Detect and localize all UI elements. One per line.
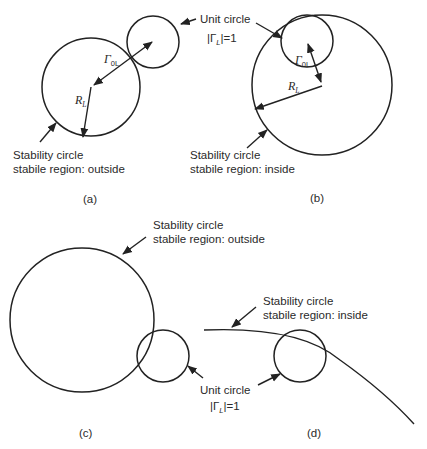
caption-c: (c): [79, 427, 93, 439]
radius-arrow-a: [83, 87, 91, 137]
unit-circle-magnitude-a: |ΓL|=1: [207, 32, 237, 47]
unit-circle-label-c: Unit circle: [200, 384, 250, 396]
panel-d: Stability circle stabile region: inside …: [204, 295, 414, 439]
stability-pointer-b: [247, 130, 267, 148]
stability-pointer-a: [40, 123, 56, 142]
radius-label-a: RL: [74, 93, 87, 109]
gamma-0l-arrow-a: [94, 42, 152, 85]
caption-b: (b): [310, 192, 324, 204]
unit-circle-pointer-c: [188, 366, 203, 378]
unit-circle-pointer-a: [181, 19, 196, 24]
unit-circle-a: [127, 16, 179, 68]
stability-circles-figure: Γ0L RL Unit circle |ΓL|=1 Stability circ…: [0, 0, 427, 449]
stability-label-c-line1: Stability circle: [153, 219, 223, 231]
unit-circle-label-a: Unit circle: [200, 13, 250, 25]
stability-circle-b: [252, 15, 392, 155]
panel-a: Γ0L RL Unit circle |ΓL|=1 Stability circ…: [13, 13, 250, 205]
radius-label-b: RL: [287, 79, 300, 95]
gamma-0l-label-b: Γ0L: [294, 53, 310, 69]
stability-label-d-line2: stabile region: inside: [263, 309, 368, 321]
diagram-svg: Γ0L RL Unit circle |ΓL|=1 Stability circ…: [0, 0, 427, 449]
stability-label-c-line2: stabile region: outside: [153, 233, 265, 245]
stability-label-d-line1: Stability circle: [263, 295, 333, 307]
stability-label-b-line2: stabile region: inside: [190, 163, 295, 175]
caption-d: (d): [307, 427, 321, 439]
stability-circle-c: [10, 248, 154, 392]
unit-circle-magnitude-c: |ΓL|=1: [210, 400, 240, 415]
caption-a: (a): [83, 193, 97, 205]
stability-label-b-line1: Stability circle: [190, 149, 260, 161]
stability-label-a-line1: Stability circle: [13, 149, 83, 161]
stability-label-a-line2: stabile region: outside: [13, 163, 125, 175]
stability-pointer-d: [232, 307, 256, 327]
gamma-0l-label-a: Γ0L: [103, 52, 119, 68]
unit-circle-pointer-d: [258, 374, 280, 385]
stability-pointer-c: [123, 237, 146, 254]
unit-circle-d: [274, 330, 326, 382]
